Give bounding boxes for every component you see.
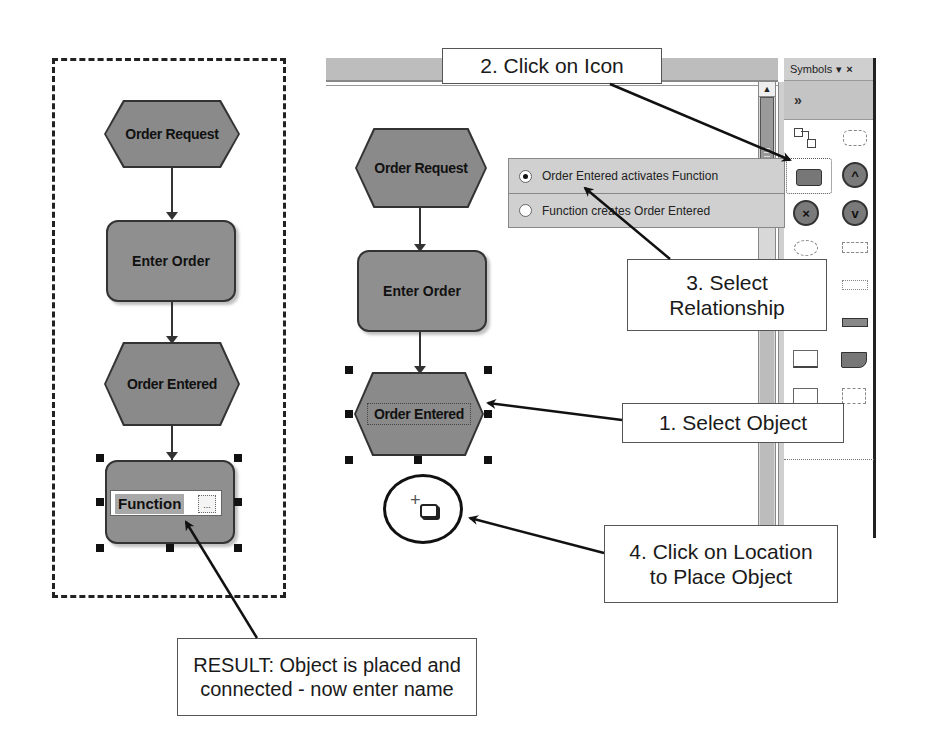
connection-symbol-icon[interactable] xyxy=(792,126,820,150)
event-order-request[interactable]: Order Request xyxy=(357,130,485,206)
relationship-option-creates[interactable]: Function creates Order Entered xyxy=(509,193,784,227)
selection-handle[interactable] xyxy=(166,544,174,552)
dotted-rect-2-symbol-icon[interactable] xyxy=(842,280,868,290)
selection-handle[interactable] xyxy=(414,456,422,464)
event-label: Order Request xyxy=(125,126,218,142)
document-symbol-icon[interactable] xyxy=(841,352,867,368)
connector-line xyxy=(171,168,173,218)
square-symbol-icon[interactable] xyxy=(793,388,818,404)
symbols-toolbar: » xyxy=(784,80,873,120)
selection-handle[interactable] xyxy=(484,456,492,464)
event-label: Order Entered xyxy=(367,403,471,425)
selection-handle[interactable] xyxy=(234,498,242,506)
selection-handle[interactable] xyxy=(345,410,353,418)
selection-handle[interactable] xyxy=(96,544,104,552)
relationship-option-activates[interactable]: Order Entered activates Function xyxy=(509,159,784,193)
event-label: Order Request xyxy=(374,160,467,176)
symbols-title: Symbols xyxy=(790,63,832,75)
relationship-popup: Order Entered activates Function Functio… xyxy=(508,158,785,228)
selection-handle[interactable] xyxy=(484,366,492,374)
callout-text: Relationship xyxy=(669,295,785,320)
dotted-rect-symbol-icon[interactable] xyxy=(842,242,868,253)
dotted-ellipse-symbol-icon[interactable] xyxy=(794,240,818,256)
option-label: Function creates Order Entered xyxy=(542,204,710,218)
arrowhead-icon xyxy=(166,452,178,460)
function-symbol-button-selected[interactable] xyxy=(786,158,832,194)
panel-divider xyxy=(784,459,874,461)
and-connector-icon[interactable]: ^ xyxy=(842,162,868,188)
function-name-editor[interactable]: Function ... xyxy=(110,490,222,516)
event-label: Order Entered xyxy=(127,376,217,392)
callout-text: 2. Click on Icon xyxy=(480,53,624,78)
callout-text: 1. Select Object xyxy=(659,410,807,435)
selection-handle[interactable] xyxy=(345,366,353,374)
callout-text: to Place Object xyxy=(650,564,792,589)
place-object-cursor-icon xyxy=(420,504,438,518)
system-symbol-icon[interactable] xyxy=(793,350,818,368)
scroll-up-button[interactable]: ▲ xyxy=(759,82,775,97)
close-icon[interactable]: × xyxy=(846,63,852,75)
selection-handle[interactable] xyxy=(96,454,104,462)
or-connector-icon[interactable]: v xyxy=(842,200,868,226)
event-order-entered-left[interactable]: Order Entered xyxy=(106,344,238,424)
information-carrier-symbol-icon[interactable] xyxy=(842,318,868,327)
selection-handle[interactable] xyxy=(345,456,353,464)
function-name-input[interactable]: Function xyxy=(115,494,184,514)
callout-text: connected - now enter name xyxy=(200,677,454,701)
function-label: Enter Order xyxy=(132,253,210,269)
callout-result: RESULT: Object is placed and connected -… xyxy=(177,638,477,716)
function-label: Enter Order xyxy=(383,283,461,299)
arrowhead-icon xyxy=(166,212,178,220)
selection-handle[interactable] xyxy=(234,544,242,552)
event-order-request-left[interactable]: Order Request xyxy=(106,102,238,166)
xor-connector-icon[interactable]: × xyxy=(793,200,819,226)
more-options-button[interactable]: ... xyxy=(198,495,216,513)
radio-checked-icon[interactable] xyxy=(519,170,532,183)
callout-step1: 1. Select Object xyxy=(622,403,844,443)
radio-unchecked-icon[interactable] xyxy=(519,204,532,217)
callout-text: 3. Select xyxy=(686,270,768,295)
function-enter-order-left[interactable]: Enter Order xyxy=(106,220,236,302)
callout-step3: 3. Select Relationship xyxy=(627,259,827,331)
selection-handle[interactable] xyxy=(234,454,242,462)
dotted-square-symbol-icon[interactable] xyxy=(842,388,866,404)
expand-icon[interactable]: » xyxy=(794,92,802,108)
selection-handle[interactable] xyxy=(96,498,104,506)
event-order-entered-selected[interactable]: Order Entered xyxy=(356,374,482,454)
option-label: Order Entered activates Function xyxy=(542,169,718,183)
callout-step2: 2. Click on Icon xyxy=(442,48,662,84)
symbols-panel-header: Symbols ▾ × xyxy=(784,58,873,80)
crosshair-cursor-icon: + xyxy=(410,490,421,511)
callout-step4: 4. Click on Location to Place Object xyxy=(604,525,838,603)
callout-text: 4. Click on Location xyxy=(629,539,812,564)
function-enter-order[interactable]: Enter Order xyxy=(357,250,487,332)
callout-text: RESULT: Object is placed and xyxy=(193,653,461,677)
dropdown-icon[interactable]: ▾ xyxy=(836,63,842,76)
selection-handle[interactable] xyxy=(484,410,492,418)
dotted-rounded-symbol-icon[interactable] xyxy=(843,130,867,146)
